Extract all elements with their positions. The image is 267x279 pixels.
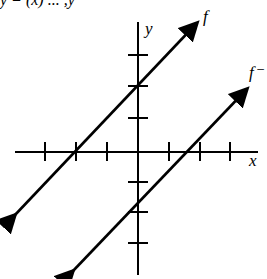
f-label: f (203, 7, 210, 26)
line-f-inverse (72, 90, 246, 272)
f-inverse-label: f⁻ (249, 63, 265, 82)
graph: y x f f⁻ (0, 0, 267, 279)
y-axis-label: y (143, 19, 153, 38)
x-axis-label: x (248, 151, 257, 170)
line-f (14, 24, 196, 216)
